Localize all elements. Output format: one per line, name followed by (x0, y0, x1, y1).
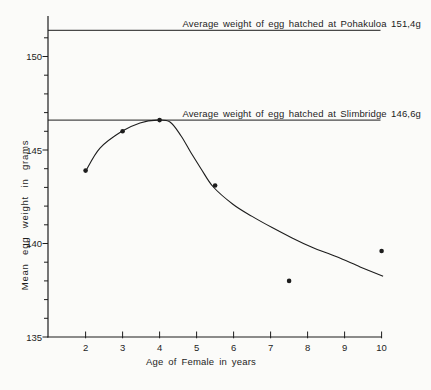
x-tick-label-3: 3 (120, 342, 125, 353)
x-tick-label-5: 5 (194, 342, 199, 353)
data-point-age-4 (157, 118, 162, 123)
x-tick-label-4: 4 (157, 342, 162, 353)
fitted-curve (86, 120, 383, 276)
y-tick-label-135: 135 (26, 332, 42, 343)
x-tick-label-9: 9 (342, 342, 347, 353)
pohakuloa-reference-label: Average weight of egg hatched at Pohakul… (183, 18, 421, 29)
x-axis-title: Age of Female in years (146, 356, 256, 367)
egg-weight-vs-age-chart: 1351401451502345678910 Average weight of… (0, 0, 431, 390)
x-tick-label-7: 7 (268, 342, 273, 353)
data-point-age-5.5 (213, 183, 218, 188)
x-tick-label-2: 2 (83, 342, 88, 353)
data-point-age-10 (379, 249, 384, 254)
plot-canvas: 1351401451502345678910 Average weight of… (0, 0, 431, 390)
data-point-age-7.5 (287, 279, 292, 284)
slimbridge-reference-label: Average weight of egg hatched at Slimbri… (182, 108, 421, 119)
x-tick-label-8: 8 (305, 342, 310, 353)
data-point-age-3 (120, 129, 125, 134)
y-tick-label-150: 150 (26, 51, 42, 62)
x-tick-label-10: 10 (376, 342, 387, 353)
data-point-age-2 (83, 168, 88, 173)
y-axis-title: Mean egg weight in grams (19, 140, 30, 291)
plot-marks: 1351401451502345678910 (26, 16, 387, 353)
x-tick-label-6: 6 (231, 342, 236, 353)
